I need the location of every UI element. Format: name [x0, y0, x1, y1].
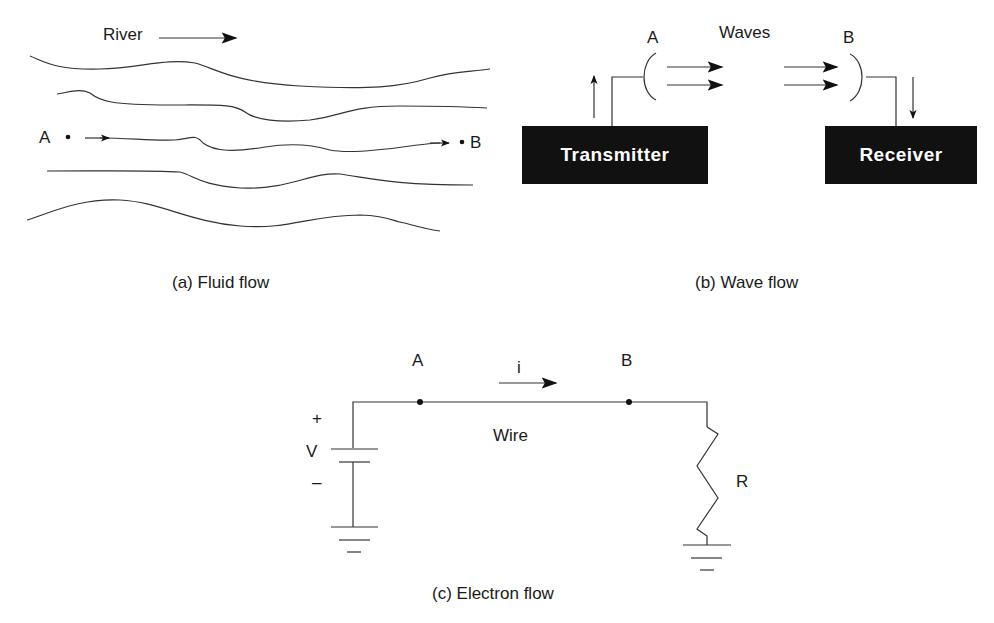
transmitter-box: Transmitter: [522, 126, 708, 184]
ground-icon: [331, 527, 378, 552]
streamline-3: [100, 137, 440, 151]
point-b-dot: [460, 140, 465, 145]
wave-point-b-label: B: [843, 29, 854, 46]
fluid-flow-panel: [27, 38, 490, 231]
point-b-dot: [626, 399, 632, 405]
ground-icon: [683, 545, 731, 570]
transmit-antenna-icon: [644, 53, 656, 100]
resistor-icon: [697, 427, 718, 545]
plus-sign: +: [312, 410, 322, 427]
receiver-antenna-feed: [866, 77, 896, 126]
receiver-box: Receiver: [825, 126, 977, 184]
point-a-dot: [417, 399, 423, 405]
diagram-canvas: [0, 0, 994, 623]
circuit-point-b-label: B: [621, 352, 632, 369]
point-a-label: A: [39, 129, 50, 146]
streamline-1: [30, 56, 490, 88]
minus-sign: –: [312, 474, 321, 491]
receive-antenna-icon: [850, 54, 862, 101]
wave-flow-panel: [594, 53, 913, 126]
streamline-5: [27, 200, 440, 231]
point-b-label: B: [470, 134, 481, 151]
electron-flow-panel: [331, 383, 731, 570]
wave-flow-caption: (b) Wave flow: [695, 274, 798, 291]
wire-label: Wire: [493, 427, 528, 444]
streamline-4: [47, 171, 473, 188]
resistor-label: R: [736, 473, 748, 490]
voltage-label: V: [306, 443, 317, 460]
point-a-dot: [66, 135, 71, 140]
waves-label: Waves: [719, 24, 770, 41]
streamline-2: [57, 91, 487, 122]
wave-point-a-label: A: [647, 29, 658, 46]
wire: [353, 402, 707, 448]
circuit-point-a-label: A: [412, 352, 423, 369]
electron-flow-caption: (c) Electron flow: [432, 585, 554, 602]
transmitter-antenna-feed: [612, 77, 643, 126]
fluid-flow-caption: (a) Fluid flow: [172, 274, 269, 291]
river-label: River: [103, 26, 143, 43]
current-label: i: [517, 359, 521, 376]
